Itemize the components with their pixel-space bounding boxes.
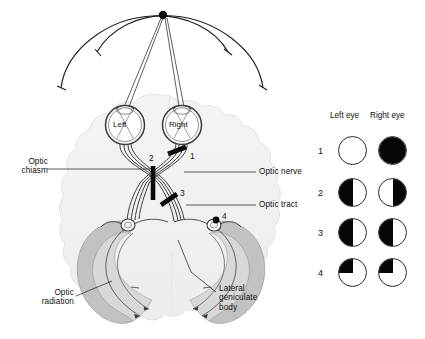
field-row-number-2: 2 — [318, 188, 323, 198]
label-optic-chiasm: Optic chiasm — [14, 157, 48, 176]
field-column-header-left-eye: Left eye — [330, 111, 359, 121]
field-row-number-3: 3 — [318, 228, 323, 238]
lesion-marker-4 — [213, 217, 220, 224]
field-circle-row3-left-eye — [338, 218, 367, 247]
eye-label-right: Right — [169, 120, 188, 129]
field-fill-left-half — [339, 179, 353, 206]
field-circle-row4-right-eye — [378, 258, 407, 287]
field-circle-row2-right-eye — [378, 178, 407, 207]
field-circle-row1-right-eye — [378, 136, 407, 165]
field-fill-full — [379, 137, 406, 164]
label-optic-radiation: Optic radiation — [28, 288, 74, 307]
field-fill-right-half — [393, 179, 407, 206]
field-row-number-4: 4 — [318, 268, 323, 278]
field-circle-row3-right-eye — [378, 218, 407, 247]
eye-label-left: Left — [113, 120, 126, 129]
field-fill-left-half — [339, 219, 353, 246]
field-row-number-1: 1 — [318, 146, 323, 156]
field-circle-row4-left-eye — [338, 258, 367, 287]
label-optic-nerve: Optic nerve — [259, 167, 302, 176]
label-optic-tract: Optic tract — [259, 200, 297, 209]
field-circle-row1-left-eye — [338, 136, 367, 165]
field-fill-upper-left-quadrant — [339, 259, 353, 273]
lesion-number-4: 4 — [222, 212, 227, 221]
lesion-number-3: 3 — [180, 189, 185, 198]
field-column-header-right-eye: Right eye — [370, 111, 405, 121]
field-fill-left-half — [379, 219, 393, 246]
field-circle-row2-left-eye — [338, 178, 367, 207]
lesion-number-1: 1 — [190, 152, 195, 161]
fixation-point — [159, 11, 167, 19]
label-lateral-geniculate-body: Lateral geniculate body — [219, 284, 257, 312]
lesion-number-2: 2 — [149, 154, 154, 163]
field-fill-upper-left-quadrant — [379, 259, 393, 273]
